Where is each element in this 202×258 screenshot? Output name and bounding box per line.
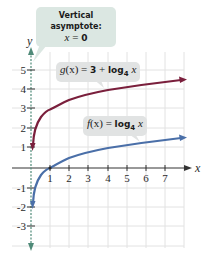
x-tick-1: 1 [47, 172, 53, 184]
y-tick-neg2: -2 [17, 201, 26, 213]
x-intercept-point [48, 166, 51, 169]
f-function-label: f(x) = log4 x [83, 116, 147, 136]
g-plus: + [96, 63, 108, 75]
f-arg: (x) [90, 117, 103, 129]
x-tick-2: 2 [66, 172, 72, 184]
y-tick-neg1: -1 [17, 182, 26, 194]
y-axis-label: y [26, 34, 33, 48]
g-var: x [129, 63, 137, 75]
asymptote-op: = [69, 31, 81, 43]
y-tick-3: 3 [21, 102, 27, 114]
asymptote-callout-title: Vertical asymptote: [38, 10, 114, 32]
y-tick-2: 2 [21, 122, 27, 134]
f-var: x [135, 117, 143, 129]
y-axis-down-arrow-icon [28, 243, 34, 251]
y-tick-1: 1 [21, 141, 27, 153]
y-tick-4: 4 [21, 83, 27, 95]
x-tick-5: 5 [124, 172, 130, 184]
g-eq: = [78, 63, 90, 75]
g-arg: (x) [66, 63, 79, 75]
x-axis-label: x [194, 161, 201, 175]
x-tick-4: 4 [105, 172, 111, 184]
asymptote-equation: x = 0 [38, 32, 114, 44]
f-curve-arrow-icon [179, 135, 187, 142]
y-tick-neg3: -3 [17, 220, 27, 232]
g-curve-arrow-icon [179, 77, 187, 84]
asymptote-callout: Vertical asymptote: x = 0 [36, 7, 116, 47]
f-curve [33, 138, 181, 203]
f-eq: = [103, 117, 115, 129]
g-log: log [108, 65, 124, 75]
x-tick-3: 3 [85, 172, 91, 184]
y-tick-5: 5 [21, 64, 27, 76]
y-axis-up-arrow-icon [28, 47, 34, 55]
x-axis-arrow-icon [184, 165, 192, 171]
x-tick-7: 7 [162, 172, 168, 184]
x-axis: 1 2 3 4 5 6 7 x [12, 161, 201, 184]
f-log: log [115, 119, 131, 129]
x-tick-6: 6 [143, 172, 149, 184]
g-function-label: g(x) = 3 + log4 x [56, 62, 140, 82]
asymptote-value: 0 [81, 33, 87, 43]
